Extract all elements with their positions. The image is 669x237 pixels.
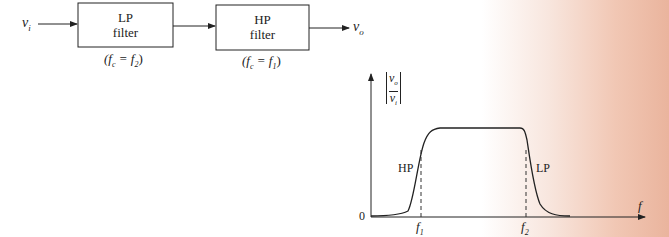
x-axis-label: f <box>638 198 642 214</box>
lp-filter-text: LP filter <box>78 10 173 40</box>
f2-tick-label: f2 <box>521 219 529 237</box>
y-axis-label: vo vi <box>386 72 401 104</box>
hp-curve-label: HP <box>398 161 413 176</box>
f1-tick-label: f1 <box>416 219 424 237</box>
lp-curve-label: LP <box>536 161 550 176</box>
hp-filter-text: HP filter <box>216 12 309 42</box>
origin-label: 0 <box>359 209 365 224</box>
lp-cutoff-label: (fc = f2) <box>104 51 143 69</box>
output-label: vo <box>353 19 364 37</box>
input-label: vi <box>22 15 31 33</box>
hp-cutoff-label: (fc = f1) <box>242 53 281 71</box>
